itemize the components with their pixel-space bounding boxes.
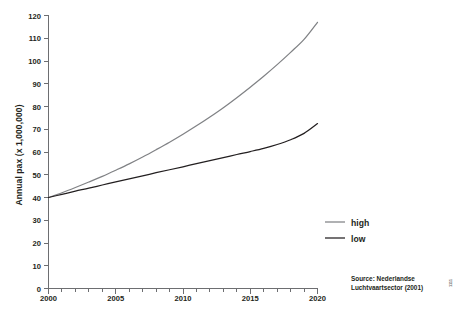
source-line-1: Source: Nederlandse — [351, 275, 415, 282]
x-tick-label: 2010 — [175, 294, 192, 303]
y-axis-ticks — [44, 16, 49, 289]
series-line-high — [49, 22, 318, 197]
legend-item-high[interactable]: high — [325, 218, 369, 228]
line-chart: Annual pax (x 1,000,000) 120 110 100 90 — [0, 0, 462, 313]
legend-label-low: low — [351, 234, 366, 244]
x-axis-tick-labels: 2000 2005 2010 2015 2020 — [40, 294, 326, 303]
y-tick-label: 110 — [29, 34, 41, 43]
y-tick-label: 70 — [33, 125, 41, 134]
y-tick-label: 50 — [33, 171, 41, 180]
source-note: Source: Nederlandse Luchtvaartsector (20… — [351, 275, 423, 292]
y-axis-title: Annual pax (x 1,000,000) — [14, 104, 24, 205]
x-axis-ticks — [49, 289, 318, 294]
y-tick-label: 30 — [33, 216, 41, 225]
y-tick-label: 10 — [33, 262, 41, 271]
x-tick-label: 2020 — [309, 294, 326, 303]
y-axis-tick-labels: 120 110 100 90 80 70 60 50 40 30 20 10 0 — [28, 12, 41, 294]
x-tick-label: 2000 — [40, 294, 57, 303]
y-tick-label: 60 — [33, 148, 41, 157]
y-tick-label: 20 — [33, 239, 41, 248]
y-tick-label: 100 — [28, 57, 41, 66]
legend-item-low[interactable]: low — [325, 234, 366, 244]
y-tick-label: 0 — [37, 285, 41, 294]
chart-legend: high low — [325, 218, 369, 244]
y-tick-label: 120 — [28, 12, 41, 21]
figure-credit: 1111 — [448, 278, 453, 287]
x-tick-label: 2005 — [107, 294, 125, 303]
source-line-2: Luchtvaartsector (2001) — [351, 284, 423, 292]
y-tick-label: 40 — [33, 194, 41, 203]
y-tick-label: 90 — [33, 80, 41, 89]
y-tick-label: 80 — [33, 103, 41, 112]
chart-figure: Annual pax (x 1,000,000) 120 110 100 90 — [0, 0, 462, 313]
legend-label-high: high — [351, 218, 369, 228]
x-tick-label: 2015 — [242, 294, 260, 303]
